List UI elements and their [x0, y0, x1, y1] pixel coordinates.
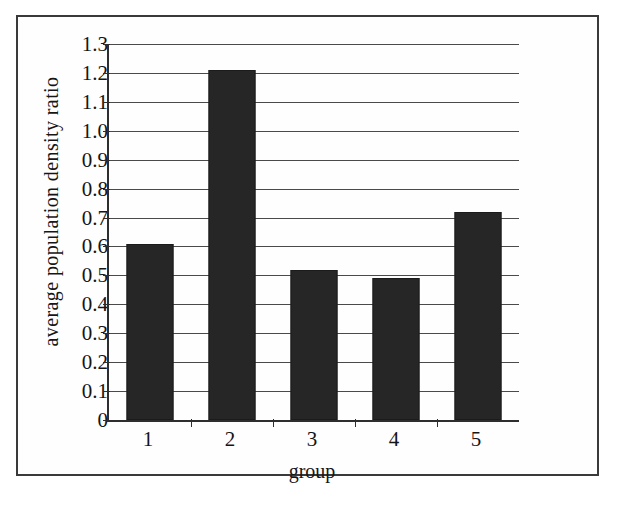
- x-tick-label: 1: [143, 429, 154, 450]
- figure-frame: average population density ratio 00.10.2…: [16, 15, 599, 476]
- bar-series: [109, 44, 519, 420]
- bar-slot: [355, 44, 437, 420]
- bar-slot: [437, 44, 519, 420]
- x-tick-mark: [273, 419, 274, 427]
- bar-slot: [273, 44, 355, 420]
- bar: [209, 70, 256, 420]
- bar: [291, 270, 338, 420]
- bar-slot: [109, 44, 191, 420]
- x-tick-label: 4: [389, 429, 400, 450]
- x-tick-label: 5: [471, 429, 482, 450]
- bar: [373, 278, 420, 420]
- bar: [127, 244, 174, 420]
- y-tick-mark: [103, 420, 110, 421]
- x-tick-label: 3: [307, 429, 318, 450]
- x-tick-label: 2: [225, 429, 236, 450]
- x-tick-mark: [437, 419, 438, 427]
- x-axis-tick-labels: 12345: [107, 429, 517, 459]
- bar-slot: [191, 44, 273, 420]
- x-axis-title: group: [107, 460, 517, 483]
- y-axis-tick-labels: 00.10.20.30.40.50.60.70.80.91.01.11.21.3: [54, 44, 108, 420]
- bar: [455, 212, 502, 420]
- x-tick-mark: [355, 419, 356, 427]
- x-tick-mark: [191, 419, 192, 427]
- plot-area: [107, 44, 519, 422]
